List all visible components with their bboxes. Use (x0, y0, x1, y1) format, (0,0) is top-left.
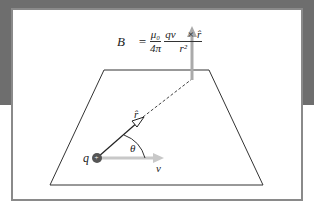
theta-label: θ (130, 142, 136, 154)
fraction-constant: μ₀ 4π (150, 29, 161, 54)
formula-equals: = (138, 34, 147, 50)
fraction-main-denominator: r² (179, 42, 187, 54)
velocity-label: v⃗ (156, 162, 169, 174)
charge-sign: + (95, 154, 99, 162)
fraction-constant-numerator: μ₀ (150, 29, 161, 42)
fraction-main: qv⃗ × r̂ r² (164, 29, 202, 54)
charge-label: q (83, 151, 89, 165)
formula-lhs: B⃗ (117, 34, 135, 50)
fraction-main-numerator: qv⃗ × r̂ (164, 29, 202, 42)
r-hat-label: r̂ (134, 108, 139, 120)
biot-savart-formula: B⃗ = μ₀ 4π qv⃗ × r̂ r² (117, 29, 202, 54)
fraction-constant-denominator: 4π (150, 42, 161, 54)
dashed-line (143, 79, 192, 117)
